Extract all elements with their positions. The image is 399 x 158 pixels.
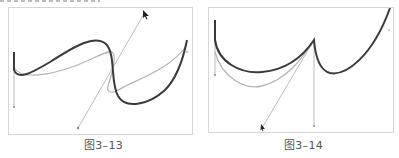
anchor-point: [388, 29, 390, 31]
cursor-arrow-icon: [261, 124, 266, 131]
edited-curve: [215, 8, 390, 73]
figure-3-14: 图3–14: [0, 0, 399, 158]
bezier-diagram: [0, 0, 399, 158]
figure-caption: 图3–14: [284, 136, 323, 152]
anchor-point: [313, 125, 315, 127]
anchor-point: [214, 74, 216, 76]
